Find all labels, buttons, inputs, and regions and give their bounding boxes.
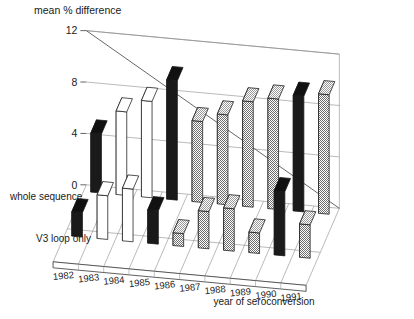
x-axis-tick-label: 1987 xyxy=(179,281,201,294)
x-axis-tick-label: 1988 xyxy=(204,283,226,296)
x-axis-title: year of seroconversion xyxy=(213,296,314,307)
chart-bars xyxy=(72,66,335,258)
y-axis-tick-label: 0 xyxy=(72,179,78,191)
chart-container: 0481219821983198419851986198719881989199… xyxy=(0,0,414,319)
bar-chart-3d: 0481219821983198419851986198719881989199… xyxy=(0,0,414,319)
row-label-whole-sequence: whole sequence xyxy=(9,191,83,202)
y-axis-tick-label: 12 xyxy=(66,24,78,36)
y-axis-tick-label: 8 xyxy=(72,76,78,88)
x-axis-tick-label: 1986 xyxy=(153,278,175,291)
x-axis-tick-label: 1985 xyxy=(128,276,150,289)
x-axis-tick-label: 1982 xyxy=(52,269,74,282)
chart-axes xyxy=(80,31,86,185)
y-axis-title: mean % difference xyxy=(34,4,122,16)
x-axis-tick-label: 1984 xyxy=(103,274,125,287)
row-label-v3-loop-only: V3 loop only xyxy=(36,233,91,244)
x-axis-tick-label: 1983 xyxy=(78,271,100,284)
y-axis-tick-label: 4 xyxy=(72,127,78,139)
